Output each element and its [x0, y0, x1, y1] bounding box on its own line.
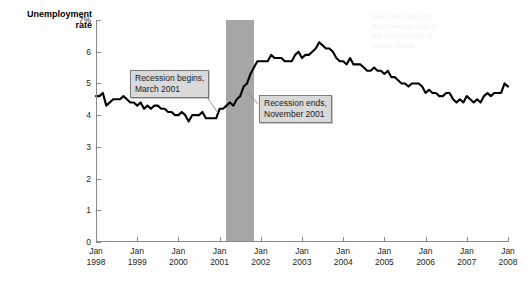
y-axis-line — [96, 20, 97, 242]
callout-recession-begins: Recession begins, March 2001 — [130, 70, 209, 98]
y-tick-4 — [96, 115, 101, 116]
x-tick-9 — [467, 237, 468, 242]
x-tick-label-0: Jan 1998 — [87, 246, 106, 267]
x-tick-label-9: Jan 2007 — [457, 246, 476, 267]
y-tick-0 — [96, 242, 101, 243]
y-tick-label-7%: 7% — [79, 15, 91, 25]
x-tick-label-3: Jan 2001 — [210, 246, 229, 267]
y-tick-label-5: 5 — [86, 78, 91, 88]
y-tick-label-1: 1 — [86, 205, 91, 215]
x-tick-label-5: Jan 2003 — [293, 246, 312, 267]
plot-area: 01234567%Jan 1998Jan 1999Jan 2000Jan 200… — [96, 20, 508, 242]
x-tick-label-8: Jan 2006 — [416, 246, 435, 267]
y-tick-3 — [96, 147, 101, 148]
x-tick-7 — [384, 237, 385, 242]
x-tick-label-1: Jan 1999 — [128, 246, 147, 267]
y-tick-5 — [96, 83, 101, 84]
y-tick-label-4: 4 — [86, 110, 91, 120]
y-tick-2 — [96, 179, 101, 180]
x-tick-4 — [261, 237, 262, 242]
x-tick-8 — [426, 237, 427, 242]
y-tick-label-2: 2 — [86, 174, 91, 184]
y-tick-label-6: 6 — [86, 47, 91, 57]
y-tick-6 — [96, 52, 101, 53]
callout-recession-ends: Recession ends, November 2001 — [259, 95, 332, 123]
x-tick-5 — [302, 237, 303, 242]
y-tick-label-3: 3 — [86, 142, 91, 152]
unemployment-rate-chart: bleed-through text from reverse side of … — [0, 0, 526, 282]
x-tick-10 — [508, 237, 509, 242]
x-tick-label-4: Jan 2002 — [251, 246, 270, 267]
x-tick-label-7: Jan 2005 — [375, 246, 394, 267]
y-tick-7% — [96, 20, 101, 21]
x-tick-label-10: Jan 2008 — [499, 246, 518, 267]
x-tick-1 — [137, 237, 138, 242]
x-tick-3 — [220, 237, 221, 242]
x-tick-6 — [343, 237, 344, 242]
y-tick-1 — [96, 210, 101, 211]
x-tick-label-6: Jan 2004 — [334, 246, 353, 267]
x-tick-0 — [96, 237, 97, 242]
x-tick-label-2: Jan 2000 — [169, 246, 188, 267]
unemployment-rate-line — [96, 20, 508, 242]
x-tick-2 — [178, 237, 179, 242]
